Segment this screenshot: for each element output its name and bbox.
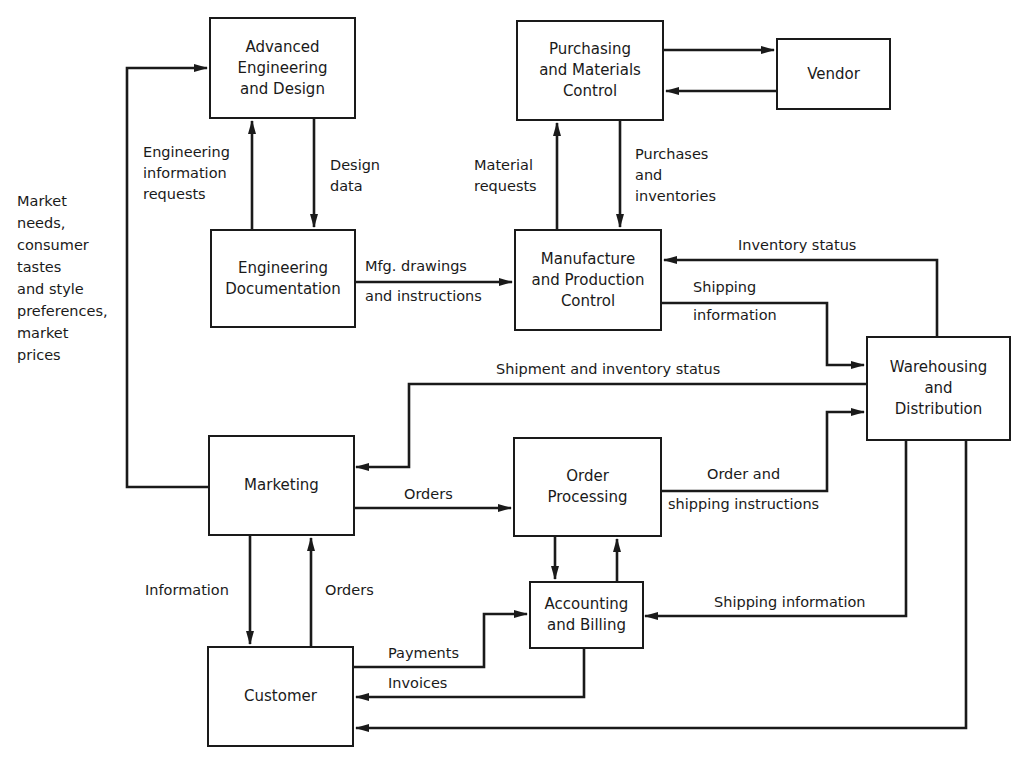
label-shipping-info-1: Shipping xyxy=(693,277,756,298)
label-shipping-information: Shipping information xyxy=(714,592,866,613)
label-purchases-inventories: Purchases and inventories xyxy=(635,144,716,207)
node-accounting: Accounting and Billing xyxy=(529,581,644,649)
label-shipping-info-2: information xyxy=(693,305,777,326)
node-purchasing: Purchasing and Materials Control xyxy=(516,20,664,121)
node-marketing: Marketing xyxy=(208,435,355,536)
label-payments: Payments xyxy=(388,643,459,664)
label-shipment-inventory-status: Shipment and inventory status xyxy=(496,359,720,380)
label-orders-marketing: Orders xyxy=(404,484,453,505)
node-engineering-documentation: Engineering Documentation xyxy=(210,229,356,328)
label-order-shipping-2: shipping instructions xyxy=(668,494,819,515)
label-market-needs: Market needs, consumer tastes and style … xyxy=(17,190,108,366)
label-design-data: Design data xyxy=(330,155,380,197)
label-information: Information xyxy=(145,580,229,601)
label-inventory-status: Inventory status xyxy=(738,235,856,256)
node-customer: Customer xyxy=(207,646,354,747)
label-invoices: Invoices xyxy=(388,673,447,694)
label-mfg-drawings-2: and instructions xyxy=(365,286,482,307)
node-advanced-engineering: Advanced Engineering and Design xyxy=(209,17,356,119)
node-vendor: Vendor xyxy=(776,38,891,110)
label-order-shipping-1: Order and xyxy=(707,464,780,485)
label-mfg-drawings-1: Mfg. drawings xyxy=(365,256,467,277)
arrow-market-needs xyxy=(127,68,208,487)
node-manufacture: Manufacture and Production Control xyxy=(514,229,662,331)
node-order-processing: Order Processing xyxy=(513,437,662,537)
label-eng-info-requests: Engineering information requests xyxy=(143,142,230,205)
label-orders-customer: Orders xyxy=(325,580,374,601)
node-warehousing: Warehousing and Distribution xyxy=(866,336,1011,441)
label-material-requests: Material requests xyxy=(474,155,537,197)
connector-lines xyxy=(0,0,1016,762)
